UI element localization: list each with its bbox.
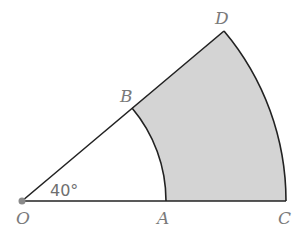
label-o: O [16,208,30,228]
label-c: C [278,208,291,228]
label-d: D [214,8,229,28]
annular-sector-diagram: 40° O A C B D [0,0,305,241]
label-a: A [155,208,169,228]
label-b: B [119,86,133,106]
angle-label: 40° [50,181,78,200]
shaded-region [132,31,286,201]
center-point-o [19,198,26,205]
